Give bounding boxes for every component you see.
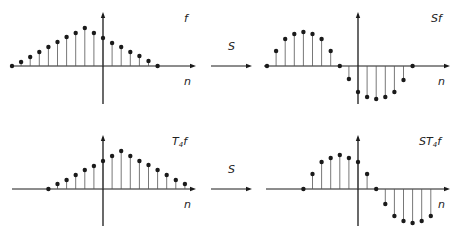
sample-dot [55, 40, 59, 44]
sample-dot [301, 187, 305, 191]
sample-dot [410, 64, 414, 68]
sample-dot [338, 153, 342, 157]
panel-title: ST4f [419, 135, 443, 149]
sample-dot [155, 168, 159, 172]
sample-dot [119, 45, 123, 49]
sample-dot [155, 64, 159, 68]
panel-f: nf [10, 12, 196, 104]
sample-dot [265, 64, 269, 68]
sample-dot [292, 32, 296, 36]
sample-dot [64, 178, 68, 182]
sample-dot [310, 32, 314, 36]
sample-dot [37, 50, 41, 54]
x-axis-arrow-icon [190, 64, 196, 68]
sample-dot [401, 78, 405, 82]
sample-dot [83, 26, 87, 30]
sample-dot [46, 187, 50, 191]
sample-dot [101, 36, 105, 40]
panel-ST4f: nST4f [266, 135, 450, 226]
sample-dot [365, 95, 369, 99]
axis-label-n: n [184, 75, 191, 88]
arrow-top: S [211, 40, 252, 68]
sample-dot [429, 214, 433, 218]
sample-dot [410, 221, 414, 225]
sample-dot [92, 164, 96, 168]
sample-dot [92, 31, 96, 35]
sample-dot [347, 77, 351, 81]
sample-dot [392, 90, 396, 94]
sample-dot [356, 90, 360, 94]
arrowhead-icon [246, 64, 252, 68]
operator-label: S [228, 40, 235, 53]
sample-dot [55, 182, 59, 186]
sample-dot [401, 219, 405, 223]
sample-dot [128, 50, 132, 54]
panel-T4f: nT4f [12, 135, 196, 226]
sample-dot [74, 173, 78, 177]
sample-dot [83, 168, 87, 172]
sample-dot [46, 45, 50, 49]
y-axis-arrow-icon [356, 12, 360, 18]
sample-dot [101, 159, 105, 163]
sample-dot [420, 219, 424, 223]
x-axis-arrow-icon [444, 187, 450, 191]
sample-dot [329, 49, 333, 53]
sample-dot [146, 163, 150, 167]
y-axis-arrow-icon [101, 135, 105, 141]
sample-dot [356, 160, 360, 164]
sample-dot [274, 49, 278, 53]
x-axis-arrow-icon [444, 64, 450, 68]
shift-operator-diagram: nfnSfnT4fnST4fSS [0, 0, 462, 237]
sample-dot [74, 31, 78, 35]
sample-dot [383, 95, 387, 99]
sample-dot [301, 30, 305, 34]
sample-dot [119, 149, 123, 153]
sample-dot [165, 173, 169, 177]
sample-dot [128, 154, 132, 158]
sample-dot [137, 159, 141, 163]
sample-dot [319, 37, 323, 41]
sample-dot [338, 64, 342, 68]
arrow-bottom: S [211, 163, 252, 191]
sample-dot [283, 37, 287, 41]
sample-dot [64, 35, 68, 39]
sample-dot [137, 54, 141, 58]
arrowhead-icon [246, 187, 252, 191]
sample-dot [183, 182, 187, 186]
sample-dot [374, 97, 378, 101]
sample-dot [319, 160, 323, 164]
sample-dot [392, 214, 396, 218]
sample-dot [19, 60, 23, 64]
sample-dot [365, 172, 369, 176]
panel-title: f [184, 12, 190, 25]
sample-dot [28, 55, 32, 59]
sample-dot [146, 59, 150, 63]
sample-dot [110, 41, 114, 45]
operator-label: S [228, 163, 235, 176]
y-axis-arrow-icon [356, 135, 360, 141]
panel-title: T4f [172, 135, 189, 149]
x-axis-arrow-icon [190, 187, 196, 191]
sample-dot [310, 172, 314, 176]
sample-dot [10, 64, 14, 68]
sample-dot [329, 156, 333, 160]
axis-label-n: n [438, 198, 445, 211]
sample-dot [174, 178, 178, 182]
sample-dot [110, 154, 114, 158]
sample-dot [374, 187, 378, 191]
axis-label-n: n [438, 75, 445, 88]
panel-Sf: nSf [264, 12, 450, 104]
panel-title: Sf [431, 12, 444, 25]
sample-dot [347, 156, 351, 160]
y-axis-arrow-icon [101, 12, 105, 18]
sample-dot [383, 202, 387, 206]
axis-label-n: n [184, 198, 191, 211]
